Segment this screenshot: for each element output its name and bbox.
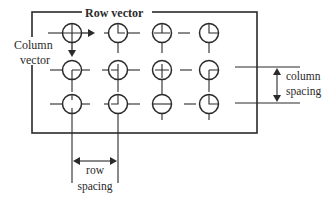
row-vector-arrow xyxy=(82,29,95,37)
row-spacing-label-line2: spacing xyxy=(77,181,112,193)
row-vector-label: Row vector xyxy=(85,7,143,19)
array-frame xyxy=(32,12,257,133)
array-elements xyxy=(63,24,219,114)
column-vector-label-line2: vector xyxy=(20,54,50,66)
column-spacing-label-line2: spacing xyxy=(286,86,321,98)
column-spacing-label-line1: column xyxy=(286,71,321,83)
array-diagram xyxy=(0,0,336,204)
row-spacing-label-line1: row xyxy=(86,165,104,177)
column-vector-label-line1: Column xyxy=(14,39,53,51)
column-vector-arrow xyxy=(68,43,76,57)
